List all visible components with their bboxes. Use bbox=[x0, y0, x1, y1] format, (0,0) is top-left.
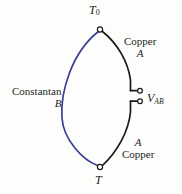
label-copper-bottom-material: Copper bbox=[122, 149, 154, 161]
label-constantan-conductor: B bbox=[12, 98, 62, 110]
thermocouple-figure: T0 Copper A Constantan B VAB A Copper T bbox=[0, 0, 182, 194]
label-t0-symbol: T bbox=[89, 3, 96, 17]
label-copper-bottom: A Copper bbox=[122, 137, 154, 160]
label-t0: T0 bbox=[89, 4, 100, 18]
terminal-node-upper bbox=[138, 88, 143, 93]
label-constantan-left: Constantan B bbox=[12, 86, 62, 109]
junction-node-top bbox=[97, 27, 102, 32]
terminal-node-lower bbox=[138, 99, 143, 104]
label-constantan-material: Constantan bbox=[12, 86, 62, 98]
label-copper-bottom-conductor: A bbox=[122, 137, 154, 149]
label-copper-top: Copper A bbox=[124, 36, 156, 59]
label-copper-top-conductor: A bbox=[124, 48, 156, 60]
label-copper-top-material: Copper bbox=[124, 36, 156, 48]
junction-node-bottom bbox=[97, 164, 102, 169]
constantan-wire-arc bbox=[62, 32, 99, 166]
label-vab-subscript: AB bbox=[154, 97, 163, 106]
label-t0-subscript: 0 bbox=[96, 8, 100, 17]
label-voltage-vab: VAB bbox=[147, 92, 164, 105]
label-t: T bbox=[95, 174, 102, 187]
